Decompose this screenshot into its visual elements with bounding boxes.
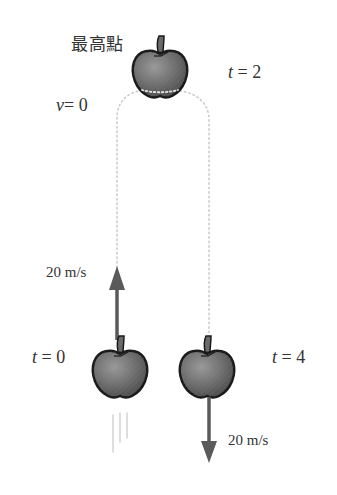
diagram-canvas	[0, 0, 337, 495]
time-var: t	[228, 62, 233, 82]
landing-time-label: t = 4	[272, 347, 305, 368]
apple-icon	[93, 336, 147, 398]
apple-icon	[180, 336, 234, 398]
landing-speed-label: 20 m/s	[228, 432, 268, 449]
apex-time-label: t = 2	[228, 62, 261, 83]
velocity-var: v	[56, 95, 64, 115]
time-var: t	[32, 347, 37, 367]
apple-icon	[133, 36, 187, 98]
dotted-trajectory	[117, 91, 209, 340]
launch-speed-label: 20 m/s	[46, 264, 86, 281]
time-value: 0	[56, 347, 65, 367]
velocity-value: 0	[79, 95, 88, 115]
arrow-down-icon	[201, 397, 217, 463]
time-value: 4	[296, 347, 305, 367]
apex-velocity-label: v= 0	[56, 95, 88, 116]
apex-label: 最高點	[71, 30, 124, 55]
launch-time-label: t = 0	[32, 347, 65, 368]
time-value: 2	[252, 62, 261, 82]
time-var: t	[272, 347, 277, 367]
arrow-up-icon	[109, 266, 125, 340]
motion-lines-icon	[113, 413, 127, 452]
